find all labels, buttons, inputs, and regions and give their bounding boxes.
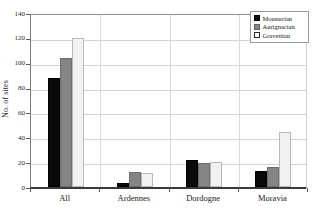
- x-tick-label: Ardennes: [99, 193, 168, 203]
- bar-mousterian-dordogne: [186, 160, 198, 187]
- y-axis-title: No. of sites: [1, 0, 10, 54]
- y-tick-label: 60: [5, 110, 25, 117]
- legend: Mousterian Aurignacian Gravettian: [250, 11, 309, 43]
- x-tick-mark: [307, 188, 308, 192]
- bar-chart: No. of sites 020406080100120140 AllArden…: [0, 0, 317, 214]
- bar-gravettian-all: [72, 38, 84, 187]
- bar-aurignacian-ardennes: [129, 172, 141, 187]
- x-tick-mark: [99, 188, 100, 192]
- y-tick-label: 80: [5, 85, 25, 92]
- bar-gravettian-dordogne: [210, 162, 222, 187]
- y-tick-label: 120: [5, 35, 25, 42]
- legend-item-aurignacian: Aurignacian: [254, 23, 306, 31]
- y-tick-label: 0: [5, 185, 25, 192]
- y-tick-label: 100: [5, 60, 25, 67]
- legend-label: Gravettian: [263, 32, 290, 39]
- x-tick-label: All: [30, 193, 99, 203]
- bar-mousterian-moravia: [255, 171, 267, 187]
- legend-item-gravettian: Gravettian: [254, 31, 306, 39]
- legend-swatch-icon: [254, 15, 260, 21]
- legend-swatch-icon: [254, 24, 260, 30]
- legend-swatch-icon: [254, 32, 260, 38]
- legend-item-mousterian: Mousterian: [254, 14, 306, 22]
- bar-mousterian-all: [48, 78, 60, 187]
- legend-label: Mousterian: [263, 15, 293, 22]
- bar-aurignacian-moravia: [267, 167, 279, 188]
- bar-mousterian-ardennes: [117, 183, 129, 187]
- x-tick-mark: [169, 188, 170, 192]
- x-tick-label: Moravia: [238, 193, 307, 203]
- y-tick-label: 140: [5, 11, 25, 18]
- bar-gravettian-ardennes: [141, 173, 153, 187]
- bar-gravettian-moravia: [279, 132, 291, 187]
- x-tick-mark: [30, 188, 31, 192]
- y-tick-label: 40: [5, 135, 25, 142]
- y-tick-label: 20: [5, 160, 25, 167]
- bar-aurignacian-all: [60, 58, 72, 187]
- x-tick-mark: [238, 188, 239, 192]
- x-tick-label: Dordogne: [169, 193, 238, 203]
- legend-label: Aurignacian: [263, 23, 295, 30]
- bar-aurignacian-dordogne: [198, 163, 210, 187]
